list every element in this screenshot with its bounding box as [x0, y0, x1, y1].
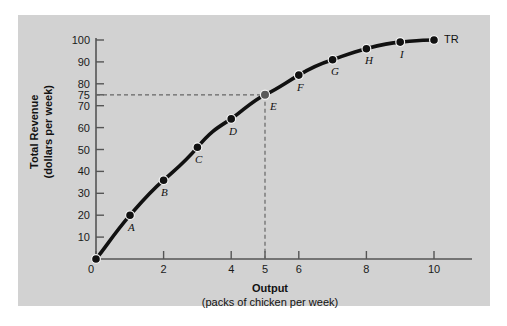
point-label-d: D [229, 126, 237, 137]
data-point-b [159, 176, 168, 185]
data-point-h [362, 44, 371, 53]
x-axis-title: Output (packs of chicken per week) [90, 281, 450, 310]
data-point-i [396, 38, 405, 47]
data-point-e [260, 90, 269, 99]
total-revenue-curve [96, 40, 434, 259]
x-axis-title-main: Output [90, 281, 450, 295]
x-tick-label-6: 6 [296, 264, 302, 275]
y-tick-label-50: 50 [54, 144, 90, 155]
series-label-tr: TR [444, 34, 459, 45]
data-point-end [430, 36, 439, 45]
y-axis-title-main: Total Revenue [28, 95, 40, 169]
point-label-g: G [331, 66, 339, 77]
data-point-d [227, 115, 236, 124]
x-axis-title-sub: (packs of chicken per week) [90, 295, 450, 309]
y-tick-label-30: 30 [54, 188, 90, 199]
x-tick-label-0: 0 [88, 264, 94, 275]
point-label-i: I [400, 49, 404, 60]
data-point-f [294, 71, 303, 80]
y-axis-title: Total Revenue (dollars per week) [28, 72, 56, 192]
y-tick-label-90: 90 [54, 56, 90, 67]
data-point-c [193, 143, 202, 152]
y-tick-label-20: 20 [54, 210, 90, 221]
x-tick-label-4: 4 [228, 264, 234, 275]
y-tick-label-70: 70 [54, 100, 90, 111]
chart-plot-area [0, 0, 507, 326]
x-tick-label-10: 10 [428, 264, 440, 275]
point-label-e: E [270, 101, 277, 112]
y-tick-label-40: 40 [54, 166, 90, 177]
y-tick-label-100: 100 [54, 35, 90, 46]
x-tick-label-8: 8 [363, 264, 369, 275]
x-tick-label-5: 5 [262, 264, 268, 275]
point-label-b: B [161, 187, 168, 198]
y-axis-title-sub: (dollars per week) [42, 85, 54, 179]
y-tick-label-60: 60 [54, 122, 90, 133]
y-axis-ticks [96, 40, 104, 237]
point-label-h: H [365, 55, 373, 66]
x-tick-label-2: 2 [161, 264, 167, 275]
figure-canvas: 100 90 80 75 70 60 50 40 30 20 10 0 2 4 … [0, 0, 507, 326]
y-tick-label-10: 10 [54, 232, 90, 243]
point-label-a: A [128, 222, 135, 233]
point-label-c: C [195, 154, 202, 165]
data-point-g [328, 55, 337, 64]
point-label-f: F [297, 82, 304, 93]
data-point-a [126, 211, 135, 220]
